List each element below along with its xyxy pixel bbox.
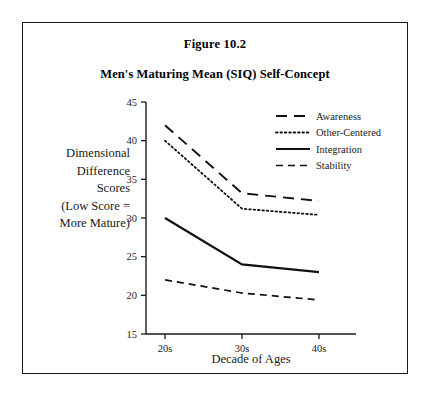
chart-plot: 45403530252015 20s30s40s AwarenessOther-… <box>23 23 409 375</box>
y-tick-label: 45 <box>127 97 138 108</box>
series-line-integration <box>165 218 319 272</box>
x-tick-label: 40s <box>312 343 327 354</box>
y-tick-label: 15 <box>127 329 138 340</box>
y-axis-title-line: Scores <box>97 181 130 195</box>
legend-label-integration: Integration <box>316 144 363 155</box>
series-line-stability <box>165 280 319 300</box>
legend-label-stability: Stability <box>316 160 352 171</box>
data-series-group <box>165 125 319 300</box>
y-axis-title-line: More Mature) <box>60 216 130 230</box>
x-axis-ticks: 20s30s40s <box>158 334 327 354</box>
y-axis-title: DimensionalDifferenceScores(Low Score =M… <box>60 146 131 230</box>
y-axis-title-line: (Low Score = <box>61 199 130 213</box>
y-tick-label: 40 <box>127 135 138 146</box>
y-tick-label: 20 <box>127 290 138 301</box>
series-line-awareness <box>165 125 319 201</box>
x-tick-label: 20s <box>158 343 173 354</box>
y-axis-title-line: Dimensional <box>66 146 130 160</box>
legend-label-awareness: Awareness <box>316 111 361 122</box>
y-axis-title-line: Difference <box>77 164 131 178</box>
chart-legend: AwarenessOther-CenteredIntegrationStabil… <box>276 111 382 172</box>
figure-frame: Figure 10.2 Men's Maturing Mean (SIQ) Se… <box>22 22 408 374</box>
x-axis-title: Decade of Ages <box>211 352 290 366</box>
series-line-other-centered <box>165 141 319 215</box>
legend-label-other-centered: Other-Centered <box>316 127 382 138</box>
y-tick-label: 25 <box>127 251 138 262</box>
